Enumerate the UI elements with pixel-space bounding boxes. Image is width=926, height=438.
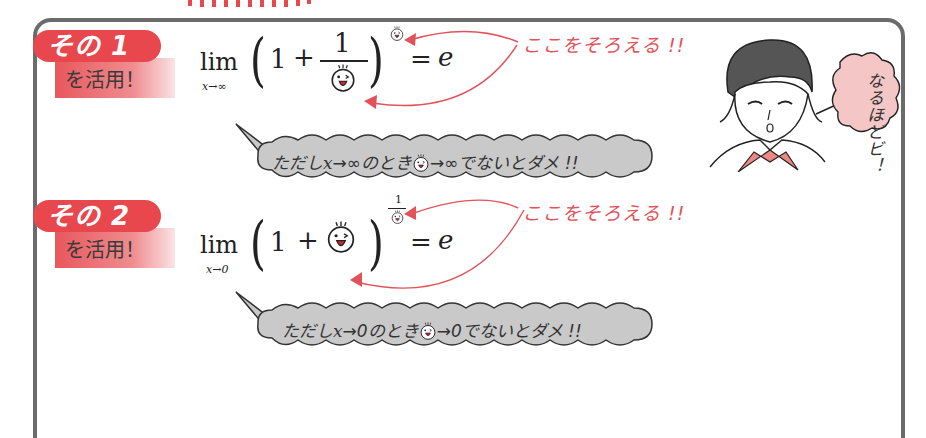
section2-badge-sub: を活用！ xyxy=(55,228,175,268)
smiley-face-exponent-icon xyxy=(391,210,404,224)
condition-limit: →∞ xyxy=(333,153,361,173)
condition-suffix: でないとダメ !! xyxy=(458,153,578,173)
constant-e: e xyxy=(438,225,453,255)
condition-var: x xyxy=(333,321,343,341)
smiley-face-icon xyxy=(412,154,430,172)
condition-face-limit: →0 xyxy=(437,321,462,341)
plus-sign: + xyxy=(297,225,319,255)
condition-prefix: ただし xyxy=(282,321,333,341)
condition-prefix: ただし xyxy=(272,153,323,173)
lim-operator: lim xyxy=(200,231,238,259)
character-thought-text: なるほどビ！ xyxy=(862,72,887,174)
condition-limit: →0 xyxy=(343,321,368,341)
exponent-fraction-bar xyxy=(388,208,406,209)
smiley-face-icon xyxy=(419,322,437,340)
condition-middle: のとき xyxy=(361,153,412,173)
condition-suffix: でないとダメ !! xyxy=(462,321,582,341)
section2-badge-label: その 2 xyxy=(33,200,161,232)
right-paren: ) xyxy=(368,209,384,277)
section1-condition-text: ただしx→∞のとき→∞でないとダメ !! xyxy=(272,149,578,174)
lim-subscript: x→0 xyxy=(206,263,228,276)
exponent-numerator: 1 xyxy=(395,193,402,206)
smiley-face-icon xyxy=(326,221,356,253)
condition-face-limit: →∞ xyxy=(430,153,458,173)
section2-formula: lim x→0 ( 1 + ) 1 = e xyxy=(200,205,520,285)
left-paren: ( xyxy=(250,209,266,277)
one: 1 xyxy=(270,227,287,257)
condition-middle: のとき xyxy=(368,321,419,341)
section2-note: ここをそろえる !! xyxy=(522,198,685,225)
equals-sign: = xyxy=(410,227,432,257)
section2-condition-text: ただしx→0のとき→0でないとダメ !! xyxy=(282,317,582,342)
condition-var: x xyxy=(323,153,333,173)
